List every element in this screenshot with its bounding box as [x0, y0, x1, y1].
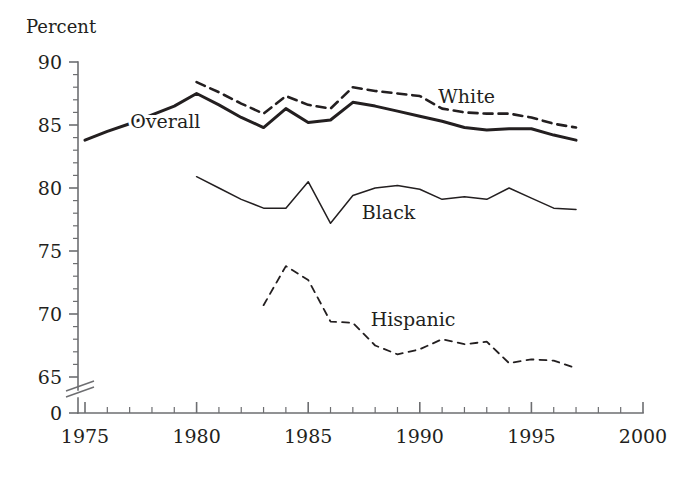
y-tick-label: 85 [38, 114, 62, 136]
x-axis: 197519801985199019952000 [61, 402, 667, 447]
y-axis-break-icon [66, 381, 94, 397]
x-tick-label: 2000 [619, 425, 667, 447]
y-tick-label: 90 [38, 51, 62, 73]
y-axis-title: Percent [26, 16, 97, 37]
x-tick-label: 1980 [172, 425, 220, 447]
x-tick-label: 1985 [284, 425, 332, 447]
line-chart: Percent 9085807570650 197519801985199019… [0, 0, 684, 481]
y-axis: 9085807570650 [38, 51, 78, 424]
x-tick-label: 1995 [507, 425, 555, 447]
chart-container: Percent 9085807570650 197519801985199019… [0, 0, 684, 481]
series-label-black: Black [362, 201, 416, 223]
x-tick-label: 1990 [396, 425, 444, 447]
y-tick-label: 65 [38, 366, 62, 388]
series-label-white: White [438, 85, 495, 107]
y-tick-label: 75 [38, 240, 62, 262]
y-tick-label: 80 [38, 177, 62, 199]
series-label-overall: Overall [130, 110, 200, 132]
series-line-white [197, 82, 576, 127]
y-tick-label-zero: 0 [50, 402, 62, 424]
y-axis-title-group: Percent [26, 16, 97, 37]
series-label-hispanic: Hispanic [371, 308, 456, 330]
y-tick-label: 70 [38, 303, 62, 325]
x-tick-label: 1975 [61, 425, 109, 447]
